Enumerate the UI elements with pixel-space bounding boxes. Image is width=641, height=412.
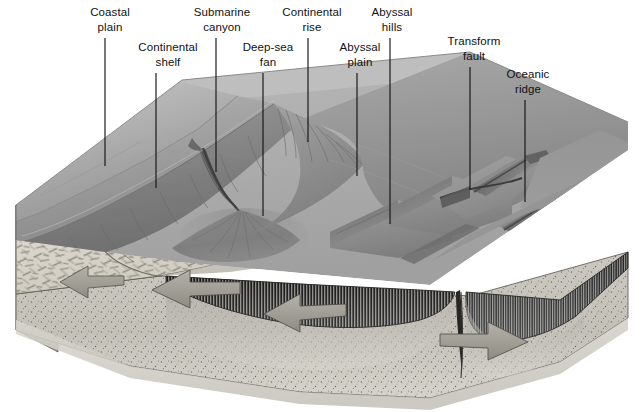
label-continental-shelf-line1: Continental: [138, 41, 197, 53]
label-coastal-plain-line1: Coastal: [90, 6, 130, 18]
label-continental-shelf-line2: shelf: [156, 56, 181, 68]
label-transform-fault-line1: Transform: [448, 35, 501, 47]
label-continental-rise-line2: rise: [303, 21, 322, 33]
label-transform-fault-line2: fault: [463, 50, 486, 62]
label-abyssal-hills-line1: Abyssal: [372, 6, 413, 18]
label-abyssal-hills-line2: hills: [382, 21, 402, 33]
ocean-basin-block-diagram: Coastal plain Continental shelf Submarin…: [0, 0, 641, 412]
label-deep-sea-fan-line2: fan: [260, 56, 276, 68]
ocean-basin-block: [16, 52, 628, 410]
label-oceanic-ridge-line1: Oceanic: [507, 68, 550, 80]
label-oceanic-ridge-line2: ridge: [515, 83, 541, 95]
label-deep-sea-fan-line1: Deep-sea: [243, 41, 294, 53]
figure-container: Coastal plain Continental shelf Submarin…: [0, 0, 641, 412]
label-abyssal-plain-line2: plain: [348, 56, 373, 68]
label-submarine-canyon-line2: canyon: [203, 21, 241, 33]
label-submarine-canyon-line1: Submarine: [194, 6, 251, 18]
label-continental-rise-line1: Continental: [282, 6, 341, 18]
label-coastal-plain-line2: plain: [98, 21, 123, 33]
label-abyssal-plain-line1: Abyssal: [340, 41, 381, 53]
